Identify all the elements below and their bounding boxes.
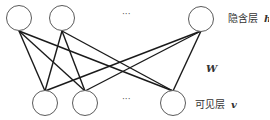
edge-h1-vn — [19, 31, 173, 91]
visible-layer-label: 可见层 v — [195, 94, 237, 111]
edge-h2-v1 — [45, 31, 62, 91]
visible-node-n — [161, 91, 186, 116]
hidden-ellipsis: ··· — [122, 9, 131, 19]
hidden-node-2 — [50, 6, 75, 31]
hidden-layer: ··· 隐含层 h — [7, 6, 270, 32]
hidden-layer-symbol: h — [264, 13, 269, 24]
visible-ellipsis: ··· — [122, 94, 131, 104]
edge-hn-v2 — [85, 31, 201, 91]
visible-layer: ··· 可见层 v — [33, 91, 238, 116]
hidden-node-n — [189, 7, 214, 32]
hidden-layer-label: 隐含层 h — [228, 8, 269, 25]
visible-node-1 — [33, 91, 58, 116]
visible-layer-text: 可见层 — [195, 99, 225, 110]
visible-node-2 — [73, 91, 98, 116]
edges — [19, 31, 201, 91]
rbm-diagram: ··· 隐含层 h W ··· 可见层 v — [0, 0, 269, 120]
weights-label: W — [206, 63, 219, 74]
hidden-layer-text: 隐含层 — [228, 12, 258, 24]
edge-h2-v2 — [62, 31, 85, 91]
edge-h1-v2 — [19, 31, 85, 91]
visible-layer-symbol: v — [231, 99, 237, 110]
edge-h2-vn — [62, 31, 173, 91]
hidden-node-1 — [7, 6, 32, 31]
